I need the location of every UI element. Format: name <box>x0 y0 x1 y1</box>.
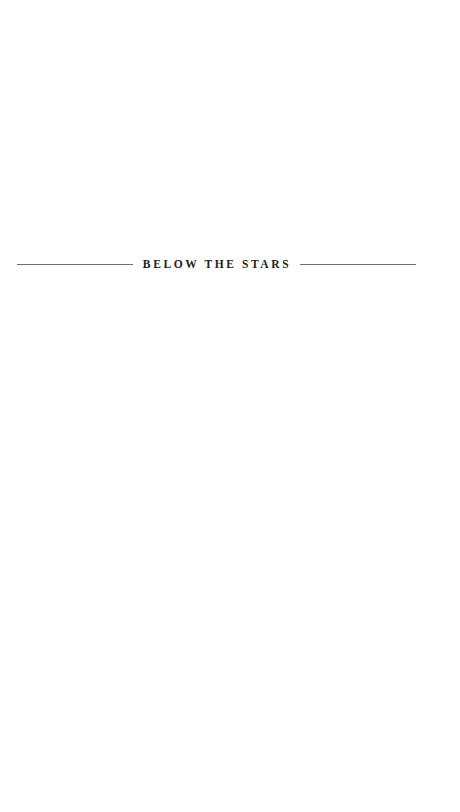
right-rule-divider <box>300 264 416 265</box>
section-title: BELOW THE STARS <box>133 254 300 274</box>
section-heading-row: BELOW THE STARS <box>17 254 416 274</box>
left-rule-divider <box>17 264 133 265</box>
